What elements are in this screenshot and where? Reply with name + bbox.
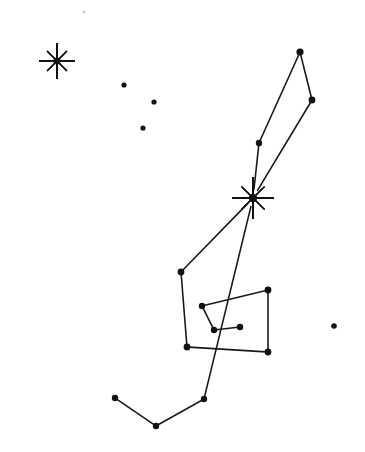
line-mid-upper-to-center — [254, 145, 259, 189]
star-shoulder-left[interactable] — [178, 269, 185, 276]
constellation-stars-layer — [39, 10, 337, 429]
star-belt-right-bottom[interactable] — [265, 349, 272, 356]
star-scatter-upper-c[interactable] — [140, 125, 145, 130]
line-inner-upper-to-belt-right-top — [204, 290, 266, 305]
line-inner-lower-to-inner-right — [216, 327, 238, 330]
line-center-to-foot-right — [204, 207, 250, 398]
constellation-figure — [0, 0, 365, 452]
speck-top — [82, 10, 85, 13]
line-belt-left-to-belt-right — [189, 347, 266, 352]
line-inner-upper-to-inner-lower — [203, 308, 213, 329]
star-foot-left[interactable] — [112, 395, 118, 401]
star-top-apex[interactable] — [296, 48, 303, 55]
star-scatter-upper-b[interactable] — [151, 99, 156, 104]
star-map-canvas — [0, 0, 365, 452]
line-apex-to-mid-upper — [260, 54, 299, 141]
star-foot-bottom[interactable] — [153, 423, 159, 429]
star-foot-right[interactable] — [201, 396, 207, 402]
line-shoulder-to-belt-left — [181, 274, 187, 345]
line-upper-right-to-center — [258, 102, 311, 191]
star-inner-upper[interactable] — [199, 303, 205, 309]
constellation-lines-layer — [117, 54, 312, 425]
star-inner-right[interactable] — [237, 324, 243, 330]
line-apex-to-upper-right — [301, 54, 312, 98]
star-isolated-right[interactable] — [331, 323, 337, 329]
star-belt-right-top[interactable] — [265, 287, 272, 294]
line-foot-left-to-foot-bottom — [117, 399, 155, 425]
star-belt-left-bottom[interactable] — [184, 344, 191, 351]
star-upper-right[interactable] — [309, 97, 316, 104]
star-scatter-upper-a[interactable] — [121, 82, 126, 87]
line-foot-bottom-to-foot-right — [158, 400, 203, 425]
star-inner-lower[interactable] — [211, 327, 217, 333]
star-mid-upper[interactable] — [256, 140, 262, 146]
star-core — [53, 57, 60, 64]
bright-star-upper-left[interactable] — [39, 43, 75, 79]
star-core — [249, 194, 257, 202]
